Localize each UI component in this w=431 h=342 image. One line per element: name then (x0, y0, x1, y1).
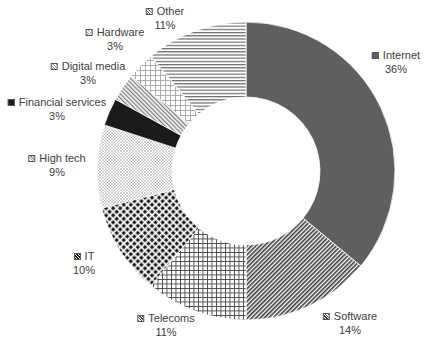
donut-slices (97, 22, 395, 320)
label-percent: 3% (51, 73, 126, 87)
label-internet: Internet36% (372, 48, 420, 76)
label-name: Hardware (97, 25, 145, 39)
label-percent: 36% (372, 62, 420, 76)
legend-swatch-icon (28, 155, 35, 162)
label-name: Other (157, 4, 185, 18)
label-other: Other11% (146, 4, 185, 32)
legend-swatch-icon (51, 63, 58, 70)
legend-swatch-icon (74, 253, 81, 260)
label-software: Software14% (323, 309, 377, 337)
label-it: IT10% (73, 249, 95, 277)
label-name: High tech (39, 151, 85, 165)
label-digital-media: Digital media3% (51, 59, 126, 87)
label-percent: 3% (86, 39, 145, 53)
label-name: Telecoms (148, 311, 194, 325)
label-name: Internet (383, 48, 420, 62)
legend-swatch-icon (146, 8, 153, 15)
legend-swatch-icon (323, 313, 330, 320)
label-hardware: Hardware3% (86, 25, 145, 53)
legend-swatch-icon (86, 29, 93, 36)
legend-swatch-icon (137, 315, 144, 322)
label-percent: 14% (323, 323, 377, 337)
label-percent: 11% (137, 325, 194, 339)
label-financial-services: Financial services3% (8, 95, 106, 123)
label-percent: 11% (146, 18, 185, 32)
label-percent: 3% (8, 109, 106, 123)
label-percent: 9% (28, 165, 85, 179)
label-high-tech: High tech9% (28, 151, 85, 179)
label-name: Software (334, 309, 377, 323)
label-name: Financial services (19, 95, 106, 109)
label-name: Digital media (62, 59, 126, 73)
label-name: IT (85, 249, 95, 263)
label-telecoms: Telecoms11% (137, 311, 194, 339)
legend-swatch-icon (8, 99, 15, 106)
legend-swatch-icon (372, 52, 379, 59)
label-percent: 10% (73, 263, 95, 277)
